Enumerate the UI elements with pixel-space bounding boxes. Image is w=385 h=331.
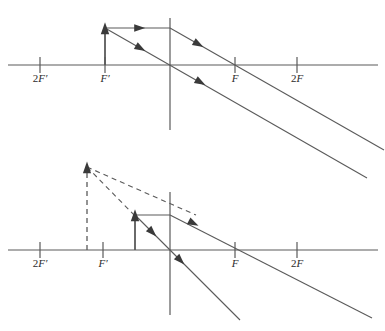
ray-refracted-through-focus-ray [170,215,372,318]
ray-arrowhead-center-ray [134,42,145,51]
diagram-top: 2F′F′F2F [8,18,384,178]
tick-label-letter: F′ [37,257,48,269]
tick-label-letter: F′ [99,72,110,84]
tick-label-letter: F [231,257,239,269]
virtual-ray-upper [87,167,196,215]
tick-label-letter: F [295,257,303,269]
ray-arrowhead-parallel-incident-ray [134,24,145,32]
image-arrow-head [83,161,91,173]
tick-label-letter: F′ [37,72,48,84]
virtual-ray-lower [87,167,137,218]
optics-ray-diagram-figure: 2F′F′F2F2F′F′F2F [0,0,385,331]
tick-label-2F-prime: 2F′ [33,72,48,84]
tick-label-F: F [231,72,239,84]
ray-arrowhead-center-ray-second-arrow [194,76,205,85]
ray-diagram-canvas: 2F′F′F2F2F′F′F2F [0,0,385,331]
tick-label-letter: F [231,72,239,84]
tick-label-F-prime: F′ [99,72,110,84]
diagram-bottom: 2F′F′F2F [8,161,378,320]
tick-label-2F-prime: 2F′ [33,257,48,269]
tick-label-letter: F [295,72,303,84]
ray-arrowhead-refracted-through-focus-ray [192,38,204,47]
tick-label-F: F [231,257,239,269]
tick-label-2F: 2F [291,72,304,84]
tick-label-letter: F′ [97,257,108,269]
tick-label-F-prime: F′ [97,257,108,269]
tick-label-2F: 2F [291,257,304,269]
